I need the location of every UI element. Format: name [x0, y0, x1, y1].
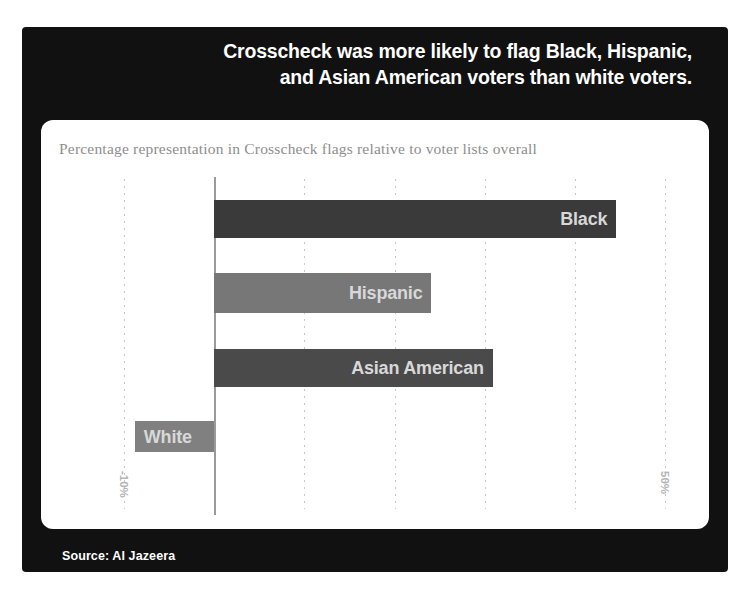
bar-label-black: Black [560, 209, 607, 230]
source-attribution: Source: Al Jazeera [62, 549, 175, 563]
bar-asian-american: Asian American [214, 349, 493, 387]
bar-label-hispanic: Hispanic [349, 283, 422, 304]
bar-hispanic: Hispanic [214, 273, 431, 313]
chart-headline: Crosscheck was more likely to flag Black… [62, 39, 692, 90]
headline-line-2: and Asian American voters than white vot… [62, 65, 692, 91]
bar-black: Black [214, 200, 616, 238]
chart-card: Crosscheck was more likely to flag Black… [22, 27, 728, 572]
bar-label-asian-american: Asian American [351, 358, 484, 379]
bar-label-white: White [144, 426, 192, 447]
tick-label-right: 50% [659, 471, 671, 494]
tick-label-left: -10% [118, 471, 130, 498]
chart-panel: Percentage representation in Crosscheck … [41, 120, 709, 529]
chart-screenshot: Crosscheck was more likely to flag Black… [0, 0, 749, 598]
headline-line-1: Crosscheck was more likely to flag Black… [62, 39, 692, 65]
bar-white: White [135, 421, 214, 452]
gridline [124, 179, 125, 509]
gridline [665, 179, 666, 509]
plot-area: BlackHispanicAsian AmericanWhite-10%50% [41, 120, 709, 529]
